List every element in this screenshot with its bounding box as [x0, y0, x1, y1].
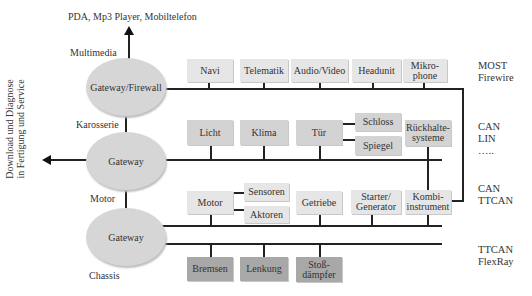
node-label: Audio/Video	[294, 66, 346, 76]
bus-label-line1: MOST	[478, 60, 514, 72]
node-aktoren: Aktoren	[244, 206, 289, 223]
node-label: Licht	[199, 128, 220, 138]
bus-label-line1: TTCAN	[478, 244, 514, 256]
drop-line	[423, 82, 425, 89]
diagnose-link-line	[50, 159, 88, 161]
gateway-chassis: Gateway	[86, 208, 166, 266]
node-schloss: Schloss	[355, 113, 401, 131]
bus-label-multimedia: MOST Firewire	[478, 60, 514, 84]
drop-line	[263, 82, 265, 89]
node-sensoren: Sensoren	[244, 183, 289, 201]
domain-label-chassis: Chassis	[89, 270, 120, 281]
domain-label-multimedia: Multimedia	[70, 47, 117, 58]
node-label: Getriebe	[302, 198, 336, 208]
tuer-spiegel-link	[342, 139, 355, 141]
node-label: Klima	[252, 128, 277, 138]
domain-label-motor: Motor	[90, 193, 115, 204]
drop-line	[371, 214, 373, 226]
most-to-kombi-vertical-line	[462, 88, 464, 202]
node-label: Bremsen	[192, 264, 228, 274]
bus-label-chassis: TTCAN FlexRay	[478, 244, 514, 268]
bus-label-body: CAN LIN …..	[478, 121, 500, 157]
can-ttcan-bus-line	[160, 225, 442, 227]
node-navi: Navi	[187, 59, 233, 82]
external-devices-label: PDA, Mp3 Player, Mobiltelefon	[68, 11, 197, 22]
gateway-karosserie: Gateway	[86, 132, 166, 190]
node-label-line1: Mikro-	[411, 61, 439, 71]
node-label-line2: dämpfer	[302, 270, 335, 280]
node-tuer: Tür	[296, 120, 342, 145]
bus-label-line2: TTCAN	[478, 195, 513, 207]
flexray-bus-line	[160, 243, 442, 245]
gateway-chassis-label: Gateway	[108, 232, 144, 243]
node-bremsen: Bremsen	[187, 257, 233, 281]
node-klima: Klima	[240, 120, 288, 145]
node-label: Telematik	[244, 66, 284, 76]
drop-line	[372, 82, 374, 89]
drop-line	[319, 145, 321, 160]
node-label: Spiegel	[363, 141, 393, 151]
rueckhalte-kombi-link-line	[427, 146, 429, 190]
node-licht: Licht	[187, 120, 233, 145]
drop-line	[263, 244, 265, 257]
node-label: Headunit	[358, 66, 395, 76]
node-rueckhaltesysteme: Rückhalte- systeme	[405, 120, 451, 146]
domain-label-karosserie: Karosserie	[76, 119, 119, 130]
node-headunit: Headunit	[352, 59, 401, 82]
node-stossdaempfer: Stoß- dämpfer	[296, 257, 342, 282]
bus-label-line1: CAN	[478, 183, 513, 195]
bus-label-powertrain: CAN TTCAN	[478, 183, 513, 207]
node-motor: Motor	[187, 191, 233, 214]
drop-line	[263, 145, 265, 160]
bus-label-line3: …..	[478, 145, 500, 157]
drop-line	[427, 214, 429, 226]
most-bus-line	[160, 88, 464, 90]
download-diagnose-line2: in Fertigung und Service	[15, 64, 26, 194]
node-label-line2: phone	[413, 71, 437, 81]
node-telematik: Telematik	[240, 59, 288, 82]
node-label: Lenkung	[246, 264, 282, 274]
node-kombiinstrument: Kombi- instrument	[405, 190, 451, 214]
drop-line	[319, 82, 321, 89]
bus-label-line2: FlexRay	[478, 256, 514, 268]
download-diagnose-label: Download und Diagnose in Fertigung und S…	[4, 64, 26, 194]
node-label: Tür	[312, 128, 326, 138]
node-label: Aktoren	[250, 210, 283, 220]
gateway-firewall-label: Gateway/Firewall	[90, 82, 162, 93]
node-label-line2: instrument	[407, 202, 450, 212]
bus-label-line1: CAN	[478, 121, 500, 133]
node-getriebe: Getriebe	[296, 191, 342, 214]
node-mikrophone: Mikro- phone	[403, 59, 447, 82]
node-label: Navi	[200, 66, 219, 76]
motor-aktoren-link	[232, 209, 244, 211]
most-to-kombi-horizontal-line	[450, 200, 464, 202]
arrow-left-icon	[42, 155, 51, 165]
drop-line	[319, 214, 321, 226]
node-label-line1: Stoß-	[308, 260, 330, 270]
gateway-firewall: Gateway/Firewall	[86, 58, 166, 116]
drop-line	[319, 244, 321, 257]
download-diagnose-line1: Download und Diagnose	[4, 64, 15, 194]
bus-label-line2: Firewire	[478, 72, 514, 84]
node-label: Motor	[198, 198, 223, 208]
motor-sensoren-link	[232, 192, 244, 194]
drop-line	[210, 244, 212, 257]
arrow-up-icon	[124, 26, 134, 35]
node-label: Schloss	[363, 117, 394, 127]
tuer-schloss-link	[342, 123, 355, 125]
node-starter-generator: Starter/ Generator	[351, 190, 401, 214]
drop-line	[210, 214, 212, 226]
node-label: Sensoren	[248, 187, 285, 197]
node-spiegel: Spiegel	[355, 136, 401, 155]
drop-line	[208, 82, 210, 89]
gateway-karosserie-label: Gateway	[108, 156, 144, 167]
can-lin-bus-line	[160, 159, 442, 161]
drop-line	[210, 145, 212, 160]
node-label-line2: Generator	[356, 202, 396, 212]
vehicle-network-diagram: PDA, Mp3 Player, Mobiltelefon Multimedia…	[0, 0, 532, 296]
node-audio-video: Audio/Video	[291, 59, 348, 82]
node-label-line2: systeme	[412, 133, 444, 143]
node-lenkung: Lenkung	[240, 257, 288, 281]
bus-label-line2: LIN	[478, 133, 500, 145]
